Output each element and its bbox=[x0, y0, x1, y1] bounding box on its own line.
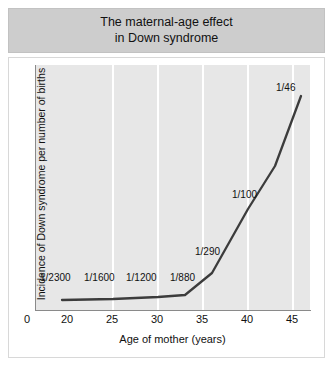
x-tick-40: 40 bbox=[241, 313, 253, 325]
point-label-1-1600: 1/1600 bbox=[84, 272, 115, 283]
point-label-1-1200: 1/1200 bbox=[126, 272, 157, 283]
point-label-1-100: 1/100 bbox=[232, 189, 257, 200]
point-label-1-290: 1/290 bbox=[195, 246, 220, 257]
chart-title-line-2: in Down syndrome bbox=[115, 31, 219, 47]
x-axis-line bbox=[35, 310, 311, 311]
gridline-age-35 bbox=[202, 65, 204, 310]
chart-title-banner: The maternal-age effect in Down syndrome bbox=[8, 8, 325, 53]
point-label-1-46: 1/46 bbox=[276, 82, 295, 93]
y-axis-label: Incidence of Down syndrome per number of… bbox=[35, 59, 47, 309]
x-axis-label: Age of mother (years) bbox=[35, 333, 310, 345]
x-tick-25: 25 bbox=[106, 313, 118, 325]
figure-root: The maternal-age effect in Down syndrome… bbox=[0, 0, 333, 366]
gridline-age-40 bbox=[247, 65, 249, 310]
x-tick-45: 45 bbox=[286, 313, 298, 325]
x-tick-30: 30 bbox=[151, 313, 163, 325]
x-tick-20: 20 bbox=[61, 313, 73, 325]
point-label-1-880: 1/880 bbox=[170, 272, 195, 283]
chart-title-line-1: The maternal-age effect bbox=[100, 15, 232, 31]
x-tick-origin: 0 bbox=[24, 313, 30, 325]
gridline-age-30 bbox=[157, 65, 159, 310]
gridline-age-45 bbox=[292, 65, 294, 310]
x-tick-35: 35 bbox=[196, 313, 208, 325]
